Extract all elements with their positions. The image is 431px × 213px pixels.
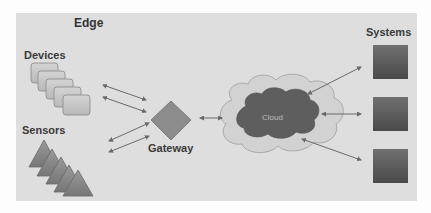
edge-section-title: Edge <box>74 16 103 30</box>
sensors-stack-icon <box>29 140 93 196</box>
gateway-label: Gateway <box>148 142 193 154</box>
cloud-label: Cloud <box>262 113 283 122</box>
systems-stack-icon <box>373 45 408 183</box>
devices-stack-icon <box>31 63 90 115</box>
devices-label: Devices <box>24 49 66 61</box>
gateway-diamond-icon <box>151 101 191 140</box>
systems-label: Systems <box>366 26 411 38</box>
sensors-label: Sensors <box>22 124 65 136</box>
